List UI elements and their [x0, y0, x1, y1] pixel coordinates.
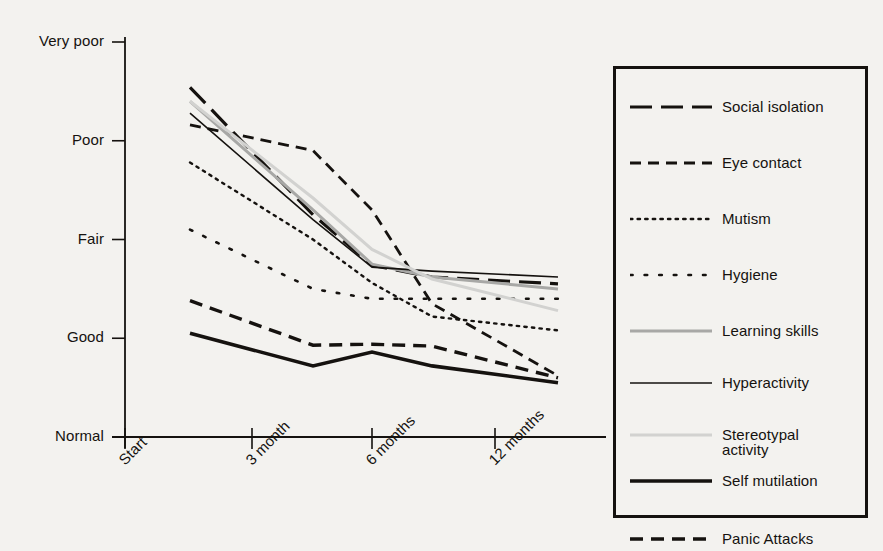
x-axis-ticks	[125, 428, 495, 449]
legend-item-panic-attacks[interactable]: Panic Attacks	[630, 531, 860, 547]
dash-key	[630, 155, 712, 171]
thick-solid-key	[630, 473, 712, 489]
legend-label-line1: Self mutilation	[722, 472, 818, 489]
legend-item-self-mutilation[interactable]: Self mutilation	[630, 473, 860, 489]
legend-label-line1: Hygiene	[722, 266, 778, 283]
legend-label-line1: Panic Attacks	[722, 530, 813, 547]
legend-label-line1: Mutism	[722, 210, 771, 227]
legend-item-mutism[interactable]: Mutism	[630, 211, 860, 227]
legend-label: Hyperactivity	[722, 375, 809, 390]
legend-label: Panic Attacks	[722, 531, 813, 546]
legend-item-learning-skills[interactable]: Learning skills	[630, 323, 860, 339]
y-axis-label-normal: Normal	[55, 427, 104, 444]
dot-fine-key	[630, 211, 712, 227]
y-axis-label-very-poor: Very poor	[39, 32, 104, 49]
legend-label: Self mutilation	[722, 473, 818, 488]
long-dash-key	[630, 99, 712, 115]
axis-group	[112, 37, 606, 449]
legend-label-line1: Hyperactivity	[722, 374, 809, 391]
legend-item-stereotypal[interactable]: Stereotypalactivity	[630, 427, 860, 457]
series-line-stereotypal-activity	[190, 101, 558, 310]
legend-label-line1: Learning skills	[722, 322, 819, 339]
series-line-learning-skills	[190, 101, 558, 289]
y-axis-ticks	[112, 42, 125, 437]
light-gray-key	[630, 427, 712, 443]
series-group	[190, 87, 558, 382]
legend: Social isolationEye contactMutismHygiene…	[613, 66, 868, 518]
gray-solid-key	[630, 323, 712, 339]
legend-item-hyperactivity[interactable]: Hyperactivity	[630, 375, 860, 391]
series-line-self-mutilation	[190, 333, 558, 382]
legend-label: Learning skills	[722, 323, 819, 338]
dot-sparse-key	[630, 267, 712, 283]
y-axis-label-poor: Poor	[72, 131, 104, 148]
series-line-panic-attacks	[190, 301, 558, 378]
y-axis-label-good: Good	[67, 328, 104, 345]
legend-label: Eye contact	[722, 155, 801, 170]
legend-label: Hygiene	[722, 267, 778, 282]
legend-label-line1: Social isolation	[722, 98, 824, 115]
series-line-mutism	[190, 163, 558, 331]
legend-item-social-isolation[interactable]: Social isolation	[630, 99, 860, 115]
series-line-social-isolation	[190, 87, 558, 284]
legend-label: Stereotypalactivity	[722, 427, 799, 457]
legend-label-line1: Eye contact	[722, 154, 801, 171]
legend-label: Social isolation	[722, 99, 824, 114]
y-axis-label-fair: Fair	[78, 230, 104, 247]
thin-solid-key	[630, 375, 712, 391]
legend-label: Mutism	[722, 211, 771, 226]
legend-item-hygiene[interactable]: Hygiene	[630, 267, 860, 283]
thick-dash-key	[630, 531, 712, 547]
chart-canvas: Very poorPoorFairGoodNormal Start3 month…	[0, 0, 883, 551]
legend-item-eye-contact[interactable]: Eye contact	[630, 155, 860, 171]
legend-label-line2: activity	[722, 442, 799, 457]
